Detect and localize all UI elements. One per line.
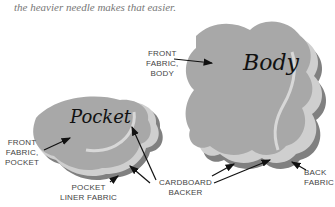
label-line: FABRIC	[304, 178, 334, 188]
label-pocket-liner: POCKET LINER FABRIC	[60, 183, 117, 203]
diagram-illustration	[0, 0, 335, 207]
label-line: FABRIC,	[146, 59, 179, 69]
label-line: LINER FABRIC	[60, 193, 117, 203]
label-cardboard-backer: CARDBOARD BACKER	[159, 178, 212, 198]
body-title: Body	[243, 50, 299, 75]
label-front-fabric-pocket: FRONT FABRIC, POCKET	[5, 138, 39, 168]
pocket-title: Pocket	[70, 106, 131, 127]
label-line: FRONT	[146, 49, 179, 59]
label-line: BODY	[146, 69, 179, 79]
label-front-fabric-body: FRONT FABRIC, BODY	[146, 49, 179, 79]
label-line: CARDBOARD	[159, 178, 212, 188]
label-line: POCKET	[60, 183, 117, 193]
arrow-backer-pocket-2	[130, 166, 150, 183]
arrow-backer-body-1	[212, 164, 234, 176]
label-line: FRONT	[5, 138, 39, 148]
label-line: BACKER	[159, 188, 212, 198]
label-line: FABRIC,	[5, 148, 39, 158]
label-line: BACK	[304, 168, 334, 178]
label-line: POCKET	[5, 158, 39, 168]
label-back-fabric: BACK FABRIC	[304, 168, 334, 188]
body-front-fabric	[186, 21, 313, 154]
